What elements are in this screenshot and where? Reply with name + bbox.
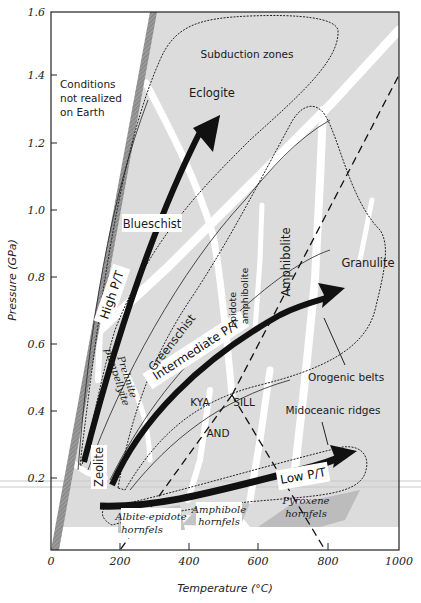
x-tick-label: 1000 — [385, 555, 413, 568]
albite-epidote-hornfels-label: Albite-epidote — [114, 511, 186, 522]
and-label: AND — [206, 427, 229, 439]
y-tick-label: 1.6 — [28, 6, 46, 19]
y-tick-label: 0.6 — [28, 338, 46, 351]
x-tick-label: 200 — [109, 555, 131, 568]
conditions-label: not realized — [60, 92, 122, 104]
x-tick-label: 800 — [318, 555, 339, 568]
x-axis — [120, 543, 328, 550]
amphibole-hornfels-label: Amphibole — [191, 504, 246, 515]
blueschist-label: Blueschist — [123, 217, 182, 231]
granulite-label: Granulite — [341, 256, 394, 270]
y-tick-label: 0.4 — [28, 405, 46, 418]
sill-label: SILL — [233, 396, 255, 408]
y-tick-label: 1.4 — [28, 69, 46, 82]
y-tick-label: 0.2 — [28, 472, 46, 485]
conditions-label: Conditions — [60, 78, 116, 90]
subduction-zones-label: Subduction zones — [200, 48, 293, 60]
x-axis-title: Temperature (°C) — [177, 582, 273, 595]
y-tick-label: 0.8 — [28, 271, 46, 284]
x-tick-label: 0 — [48, 555, 55, 568]
y-axis-title: Pressure (GPa) — [6, 239, 19, 321]
y-axis — [51, 75, 57, 478]
y-tick-label: 1.0 — [28, 204, 46, 217]
x-tick-label: 400 — [178, 555, 200, 568]
albite-epidote-hornfels-label: hornfels — [121, 524, 163, 535]
x-tick-label: 600 — [248, 555, 269, 568]
pyroxene-hornfels-label: hornfels — [285, 508, 327, 519]
eclogite-label: Eclogite — [189, 86, 235, 100]
conditions-label: on Earth — [60, 106, 105, 118]
epidote-amphibolite-label: amphibolite — [239, 268, 250, 325]
y-tick-label: 1.2 — [28, 137, 46, 150]
pt-diagram: 1.6 1.4 1.2 1.0 0.8 0.6 0.4 0.2 0 200 40… — [0, 0, 421, 603]
zeolite-label: Zeolite — [92, 447, 106, 487]
amphibolite-label: Amphibolite — [279, 227, 293, 296]
midoceanic-ridges-label: Midoceanic ridges — [286, 404, 381, 416]
pyroxene-hornfels-label: Pyroxene — [281, 495, 329, 506]
kya-label: KYA — [190, 396, 210, 408]
orogenic-belts-label: Orogenic belts — [308, 371, 384, 383]
amphibole-hornfels-label: hornfels — [198, 516, 240, 527]
